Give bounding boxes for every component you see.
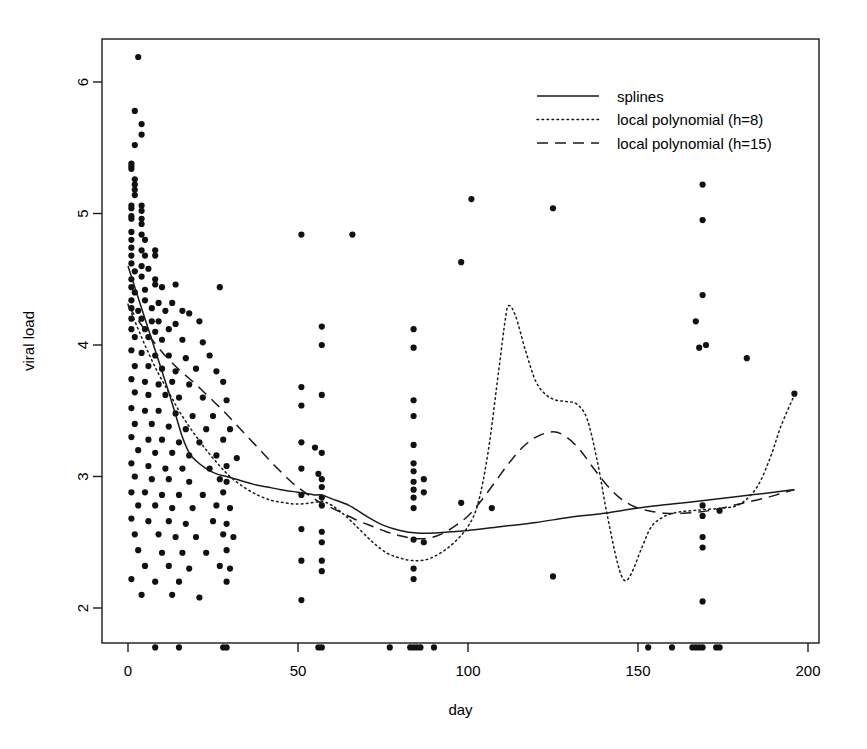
data-point xyxy=(176,644,182,650)
data-point xyxy=(298,526,304,532)
data-point xyxy=(176,579,182,585)
data-point xyxy=(142,297,148,303)
data-point xyxy=(128,489,134,495)
data-point xyxy=(411,468,417,474)
data-point xyxy=(669,644,675,650)
data-point xyxy=(132,531,138,537)
data-point xyxy=(196,594,202,600)
data-point xyxy=(132,473,138,479)
data-point xyxy=(224,463,230,469)
data-point xyxy=(298,231,304,237)
data-point xyxy=(744,355,750,361)
data-point xyxy=(135,308,141,314)
data-point xyxy=(132,192,138,198)
chart-canvas: 05010015020023456dayviral loadsplinesloc… xyxy=(0,0,867,749)
legend: splineslocal polynomial (h=8)local polyn… xyxy=(537,88,772,152)
data-point xyxy=(319,539,325,545)
data-point xyxy=(700,598,706,604)
data-point xyxy=(411,487,417,493)
data-point xyxy=(128,260,134,266)
data-point xyxy=(142,237,148,243)
data-point xyxy=(128,166,134,172)
data-point xyxy=(176,492,182,498)
data-point xyxy=(213,502,219,508)
data-point xyxy=(132,389,138,395)
data-point xyxy=(159,284,165,290)
data-point xyxy=(411,413,417,419)
data-point xyxy=(156,408,162,414)
data-point xyxy=(159,437,165,443)
data-point xyxy=(139,208,145,214)
data-point xyxy=(703,342,709,348)
data-point xyxy=(128,326,134,332)
data-point xyxy=(183,355,189,361)
data-point xyxy=(645,644,651,650)
data-point xyxy=(149,476,155,482)
data-point xyxy=(700,534,706,540)
data-point xyxy=(458,259,464,265)
data-point xyxy=(298,466,304,472)
data-point xyxy=(128,297,134,303)
data-point xyxy=(162,392,168,398)
data-point xyxy=(152,644,158,650)
data-point xyxy=(224,521,230,527)
data-point xyxy=(319,529,325,535)
data-point xyxy=(319,558,325,564)
data-point xyxy=(227,505,233,511)
data-point xyxy=(139,121,145,127)
data-point xyxy=(128,434,134,440)
data-point xyxy=(227,426,233,432)
data-point xyxy=(550,205,556,211)
data-point xyxy=(230,534,236,540)
data-point xyxy=(132,108,138,114)
data-point xyxy=(203,426,209,432)
data-point xyxy=(700,292,706,298)
data-point xyxy=(421,489,427,495)
data-point xyxy=(132,421,138,427)
data-point xyxy=(431,644,437,650)
data-point xyxy=(139,274,145,280)
data-point xyxy=(139,221,145,227)
data-point xyxy=(139,247,145,253)
data-point xyxy=(145,518,151,524)
data-point xyxy=(193,366,199,372)
data-point xyxy=(193,534,199,540)
data-point xyxy=(700,513,706,519)
y-axis-tick-label: 4 xyxy=(74,341,91,349)
data-point xyxy=(142,489,148,495)
data-point xyxy=(210,413,216,419)
data-point xyxy=(145,437,151,443)
data-point xyxy=(142,563,148,569)
data-point xyxy=(411,345,417,351)
data-point xyxy=(220,531,226,537)
data-point xyxy=(145,463,151,469)
data-point xyxy=(220,437,226,443)
data-point xyxy=(159,337,165,343)
data-point xyxy=(179,550,185,556)
x-axis-tick-label: 200 xyxy=(795,662,820,679)
data-point xyxy=(128,245,134,251)
y-axis-tick-label: 6 xyxy=(74,78,91,86)
x-axis-tick-label: 0 xyxy=(124,662,132,679)
data-point xyxy=(298,439,304,445)
data-point xyxy=(169,592,175,598)
data-point xyxy=(162,308,168,314)
data-point xyxy=(179,308,185,314)
data-point xyxy=(186,381,192,387)
x-axis-title: day xyxy=(448,701,473,718)
data-point xyxy=(149,305,155,311)
data-point xyxy=(128,252,134,258)
data-point xyxy=(421,476,427,482)
data-point xyxy=(128,229,134,235)
data-point xyxy=(196,439,202,445)
data-point xyxy=(145,363,151,369)
legend-label: local polynomial (h=15) xyxy=(617,135,772,152)
data-point xyxy=(169,379,175,385)
data-point xyxy=(458,500,464,506)
data-point xyxy=(411,505,417,511)
data-point xyxy=(224,479,230,485)
data-point xyxy=(489,505,495,511)
data-point xyxy=(166,563,172,569)
data-point xyxy=(411,326,417,332)
data-point xyxy=(128,347,134,353)
